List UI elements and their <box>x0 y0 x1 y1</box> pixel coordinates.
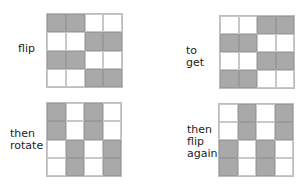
blank-cell <box>66 103 85 121</box>
shaded-cell <box>256 158 275 176</box>
shaded-cell <box>275 122 294 140</box>
blank-cell <box>84 158 103 176</box>
blank-cell <box>85 51 104 69</box>
shaded-cell <box>66 51 85 69</box>
blank-cell <box>276 70 295 88</box>
shaded-cell <box>276 52 295 70</box>
shaded-cell <box>66 14 85 32</box>
blank-cell <box>219 122 238 140</box>
label-to-get: to get <box>186 45 204 69</box>
blank-cell <box>239 16 258 34</box>
blank-cell <box>276 34 295 52</box>
shaded-cell <box>239 70 258 88</box>
shaded-cell <box>220 70 239 88</box>
blank-cell <box>275 140 294 158</box>
shaded-cell <box>276 16 295 34</box>
label-line: rotate <box>10 140 43 152</box>
blank-cell <box>47 140 66 158</box>
shaded-cell <box>47 121 66 139</box>
shaded-cell <box>85 69 104 87</box>
label-line: again <box>187 148 218 160</box>
blank-cell <box>220 52 239 70</box>
label-then-flip-again: then flip again <box>187 124 218 160</box>
blank-cell <box>47 158 66 176</box>
shaded-cell <box>103 140 122 158</box>
blank-cell <box>103 103 122 121</box>
shaded-cell <box>257 52 276 70</box>
label-then-rotate: then rotate <box>10 128 43 152</box>
label-text: flip <box>18 42 35 55</box>
shaded-cell <box>238 122 257 140</box>
blank-cell <box>220 16 239 34</box>
grid-to-get <box>219 15 295 89</box>
blank-cell <box>66 32 85 50</box>
blank-cell <box>219 104 238 122</box>
shaded-cell <box>238 104 257 122</box>
blank-cell <box>103 121 122 139</box>
blank-cell <box>239 52 258 70</box>
shaded-cell <box>220 34 239 52</box>
blank-cell <box>257 70 276 88</box>
blank-cell <box>257 34 276 52</box>
blank-cell <box>256 104 275 122</box>
shaded-cell <box>219 140 238 158</box>
label-flip: flip <box>18 43 35 55</box>
shaded-cell <box>66 140 85 158</box>
shaded-cell <box>84 121 103 139</box>
shaded-cell <box>239 34 258 52</box>
blank-cell <box>84 140 103 158</box>
blank-cell <box>103 51 122 69</box>
blank-cell <box>66 69 85 87</box>
grid-then-rotate <box>46 102 122 177</box>
shaded-cell <box>103 69 122 87</box>
blank-cell <box>85 14 104 32</box>
blank-cell <box>275 158 294 176</box>
grid-flip <box>46 13 123 88</box>
blank-cell <box>238 140 257 158</box>
blank-cell <box>238 158 257 176</box>
shaded-cell <box>257 16 276 34</box>
label-text: to get <box>186 44 204 69</box>
shaded-cell <box>47 14 66 32</box>
shaded-cell <box>219 158 238 176</box>
shaded-cell <box>47 103 66 121</box>
shaded-cell <box>66 158 85 176</box>
shaded-cell <box>47 51 66 69</box>
shaded-cell <box>256 140 275 158</box>
blank-cell <box>47 69 66 87</box>
shaded-cell <box>103 32 122 50</box>
blank-cell <box>66 121 85 139</box>
grid-then-flip-again <box>218 103 294 177</box>
shaded-cell <box>103 158 122 176</box>
shaded-cell <box>85 32 104 50</box>
blank-cell <box>47 32 66 50</box>
shaded-cell <box>275 104 294 122</box>
blank-cell <box>256 122 275 140</box>
blank-cell <box>103 14 122 32</box>
shaded-cell <box>84 103 103 121</box>
